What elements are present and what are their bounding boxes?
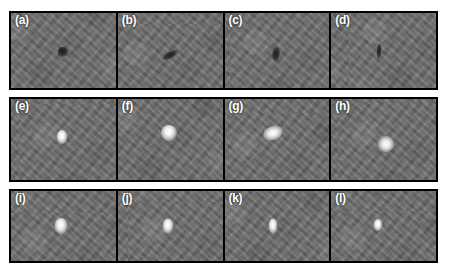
panel-label-l: (l) xyxy=(335,192,345,206)
panel-label-c: (c) xyxy=(229,14,243,28)
panel-label-k: (k) xyxy=(229,192,243,206)
panel-e: (e) xyxy=(11,99,118,180)
panel-texture-layer xyxy=(331,191,436,261)
panel-k: (k) xyxy=(225,191,332,261)
panel-feature-g xyxy=(261,123,284,142)
panel-d: (d) xyxy=(331,13,436,88)
panel-h: (h) xyxy=(331,99,436,180)
panel-row: (a)(b)(c)(d) xyxy=(9,11,438,90)
panel-label-e: (e) xyxy=(15,100,29,114)
panel-label-i: (i) xyxy=(15,192,25,206)
panel-feature-c xyxy=(271,46,281,62)
panel-row: (i)(j)(k)(l) xyxy=(9,189,438,263)
panel-feature-h xyxy=(375,134,396,155)
panel-feature-b xyxy=(161,48,179,62)
panel-feature-j xyxy=(163,219,174,234)
panel-feature-k xyxy=(268,219,277,234)
panel-feature-d xyxy=(376,43,382,58)
panel-label-f: (f) xyxy=(122,100,133,114)
panel-b: (b) xyxy=(118,13,225,88)
panel-c: (c) xyxy=(225,13,332,88)
figure-panel-grid: (a)(b)(c)(d)(e)(f)(g)(h)(i)(j)(k)(l) xyxy=(0,0,450,279)
panel-feature-f xyxy=(161,125,177,141)
panel-a: (a) xyxy=(11,13,118,88)
panel-g: (g) xyxy=(225,99,332,180)
panel-i: (i) xyxy=(11,191,118,261)
panel-label-j: (j) xyxy=(122,192,132,206)
panel-feature-e xyxy=(57,130,68,144)
panel-j: (j) xyxy=(118,191,225,261)
panel-l: (l) xyxy=(331,191,436,261)
panel-texture-layer xyxy=(331,191,436,261)
panel-f: (f) xyxy=(118,99,225,180)
panel-label-h: (h) xyxy=(335,100,349,114)
panel-label-d: (d) xyxy=(335,14,349,28)
panel-label-g: (g) xyxy=(229,100,243,114)
panel-label-b: (b) xyxy=(122,14,136,28)
panel-feature-a xyxy=(58,47,69,57)
panel-feature-i xyxy=(55,218,68,234)
panel-feature-l xyxy=(374,219,383,231)
panel-texture-layer xyxy=(331,191,436,261)
panel-row: (e)(f)(g)(h) xyxy=(9,97,438,182)
panel-label-a: (a) xyxy=(15,14,29,28)
